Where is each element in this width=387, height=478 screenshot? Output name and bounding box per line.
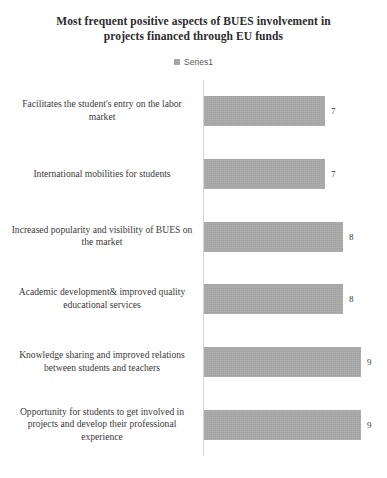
bar-value-label: 7 [331,169,336,179]
bar-series1 [204,284,343,314]
bar-value-label: 7 [331,106,336,116]
category-label: Increased popularity and visibility of B… [8,224,196,249]
bar-value-label: 9 [367,357,372,367]
bar-chart-figure: Most frequent positive aspects of BUES i… [0,0,387,478]
category-label: Academic development& improved quality e… [8,287,196,312]
legend-swatch-series1 [174,59,180,65]
bar-series1 [204,410,361,440]
category-label: Knowledge sharing and improved relations… [8,349,196,374]
category-label: Opportunity for students to get involved… [8,406,196,444]
bar-value-label: 9 [367,420,372,430]
bar-row: Opportunity for students to get involved… [0,393,387,456]
bar-value-label: 8 [349,232,354,242]
bar-series1 [204,347,361,377]
bar-wrapper: 8 [204,284,354,314]
bar-wrapper: 9 [204,347,372,377]
bar-series1 [204,222,343,252]
bar-rows: Facilitates the student's entry on the l… [0,80,387,456]
bar-wrapper: 7 [204,159,336,189]
bar-wrapper: 7 [204,96,336,126]
category-label: Facilitates the student's entry on the l… [8,99,196,124]
bar-row: Facilitates the student's entry on the l… [0,80,387,143]
bar-series1 [204,159,325,189]
legend-label-series1: Series1 [184,57,213,67]
bar-row: International mobilities for students 7 [0,143,387,206]
category-label: International mobilities for students [8,168,196,181]
bar-row: Academic development& improved quality e… [0,268,387,331]
bar-wrapper: 8 [204,222,354,252]
chart-title: Most frequent positive aspects of BUES i… [40,14,347,44]
bar-row: Increased popularity and visibility of B… [0,205,387,268]
bar-value-label: 8 [349,294,354,304]
bar-row: Knowledge sharing and improved relations… [0,331,387,394]
chart-legend: Series1 [0,57,387,67]
plot-area: Facilitates the student's entry on the l… [0,80,387,456]
bar-series1 [204,96,325,126]
bar-wrapper: 9 [204,410,372,440]
